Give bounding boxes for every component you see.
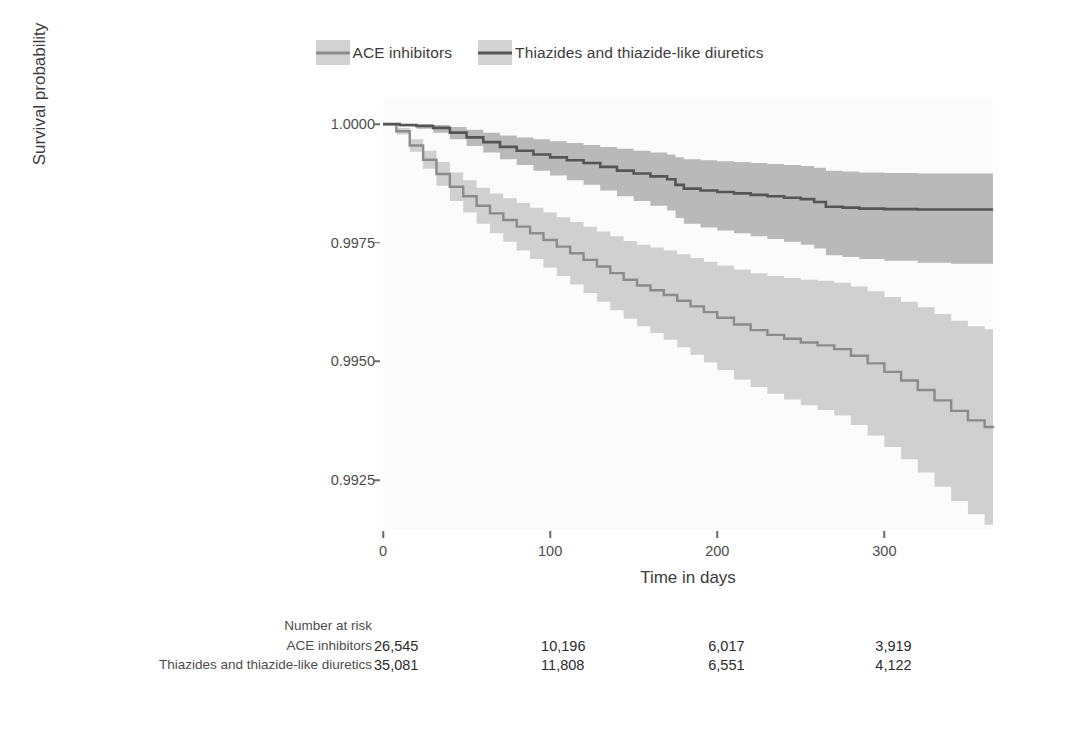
risk-table-cell: 11,808 [541,657,584,673]
risk-table-cell: 26,545 [374,638,418,654]
risk-table-cell: 35,081 [374,657,418,673]
x-axis-tick-label: 200 [705,543,729,559]
risk-table-row: Thiazides and thiazide-like diuretics35,… [0,657,1079,676]
y-axis-tick-mark [374,361,380,363]
x-axis-tick-label: 100 [538,543,562,559]
kaplan-meier-figure: ACE inhibitors Thiazides and thiazide-li… [0,0,1079,730]
x-axis-tick-mark [884,531,886,538]
x-axis-title: Time in days [383,568,993,588]
x-axis-tick-label: 0 [379,543,387,559]
risk-table-row-label: ACE inhibitors [0,638,372,653]
risk-table-cell: 6,551 [708,657,744,673]
risk-table-cell: 4,122 [875,657,911,673]
risk-table-cell: 10,196 [541,638,585,654]
x-axis-tick-label: 300 [872,543,896,559]
x-axis-tick-mark [716,531,718,538]
number-at-risk-table: Number at risk ACE inhibitors26,54510,19… [0,618,1079,688]
x-axis-tick-mark [549,531,551,538]
y-axis-tick-mark [374,479,380,481]
y-axis-tick-mark [374,242,380,244]
risk-table-row: ACE inhibitors26,54510,1966,0173,919 [0,638,1079,657]
risk-table-cell: 3,919 [875,638,911,654]
risk-table-cell: 6,017 [708,638,744,654]
risk-table-header-label: Number at risk [0,618,372,633]
risk-table-header-row: Number at risk [0,618,1079,637]
risk-table-row-label: Thiazides and thiazide-like diuretics [0,657,372,672]
x-axis-tick-mark [382,531,384,538]
y-axis-tick-mark [374,123,380,125]
